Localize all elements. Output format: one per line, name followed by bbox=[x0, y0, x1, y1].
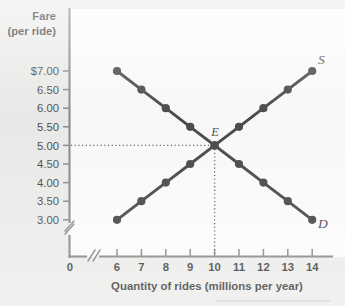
x-tick-label-9: 9 bbox=[187, 261, 193, 273]
origin-label: 0 bbox=[67, 261, 73, 273]
y-axis-title-line1: Fare bbox=[32, 10, 56, 22]
x-tick-label-13: 13 bbox=[282, 261, 295, 273]
equilibrium-point-marker bbox=[210, 141, 219, 150]
equilibrium-label: E bbox=[210, 125, 219, 139]
x-tick-label-12: 12 bbox=[257, 261, 270, 273]
x-tick-label-10: 10 bbox=[208, 261, 221, 273]
y-tick-label-6-00: 6.00 bbox=[37, 102, 59, 114]
y-tick-label-3-00: 3.00 bbox=[37, 214, 59, 226]
x-axis-title: Quantity of rides (millions per year) bbox=[111, 280, 303, 292]
x-tick-label-7: 7 bbox=[138, 261, 144, 273]
plot-background bbox=[69, 9, 345, 257]
y-tick-label-7-00: $7.00 bbox=[31, 65, 59, 77]
y-axis-title-line2: (per ride) bbox=[8, 25, 57, 37]
y-tick-label-5-00: 5.00 bbox=[37, 140, 59, 152]
y-tick-label-3-50: 3.50 bbox=[37, 195, 59, 207]
x-tick-label-8: 8 bbox=[163, 261, 169, 273]
supply-demand-figure: $7.00 6.50 6.00 5.50 5.00 4.50 4.00 3.50… bbox=[0, 0, 345, 306]
x-tick-label-14: 14 bbox=[306, 261, 319, 273]
x-tick-label-6: 6 bbox=[114, 261, 120, 273]
supply-curve-label: S bbox=[318, 52, 325, 67]
chart-canvas: $7.00 6.50 6.00 5.50 5.00 4.50 4.00 3.50… bbox=[0, 0, 345, 306]
x-tick-label-11: 11 bbox=[233, 261, 245, 273]
y-tick-label-5-50: 5.50 bbox=[37, 121, 59, 133]
y-tick-label-4-50: 4.50 bbox=[37, 158, 59, 170]
y-tick-label-4-00: 4.00 bbox=[37, 177, 59, 189]
y-tick-label-6-50: 6.50 bbox=[37, 84, 59, 96]
demand-curve-label: D bbox=[317, 216, 328, 231]
